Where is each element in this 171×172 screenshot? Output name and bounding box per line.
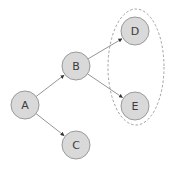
edge-b-to-e-arrow — [88, 74, 123, 98]
node-c: C — [62, 131, 90, 159]
node-a: A — [11, 91, 39, 119]
graph-diagram: ABCDE — [0, 0, 171, 172]
node-label: C — [72, 139, 80, 152]
node-label: E — [132, 100, 139, 113]
edge-a-to-c-arrow — [36, 114, 64, 136]
nodes-layer: ABCDE — [11, 17, 149, 159]
node-label: A — [21, 99, 29, 112]
node-label: B — [72, 60, 80, 73]
edge-b-to-d-arrow — [88, 39, 122, 59]
node-label: D — [131, 25, 139, 38]
node-d: D — [121, 17, 149, 45]
node-b: B — [62, 52, 90, 80]
node-e: E — [121, 92, 149, 120]
edge-a-to-b-arrow — [36, 75, 64, 96]
